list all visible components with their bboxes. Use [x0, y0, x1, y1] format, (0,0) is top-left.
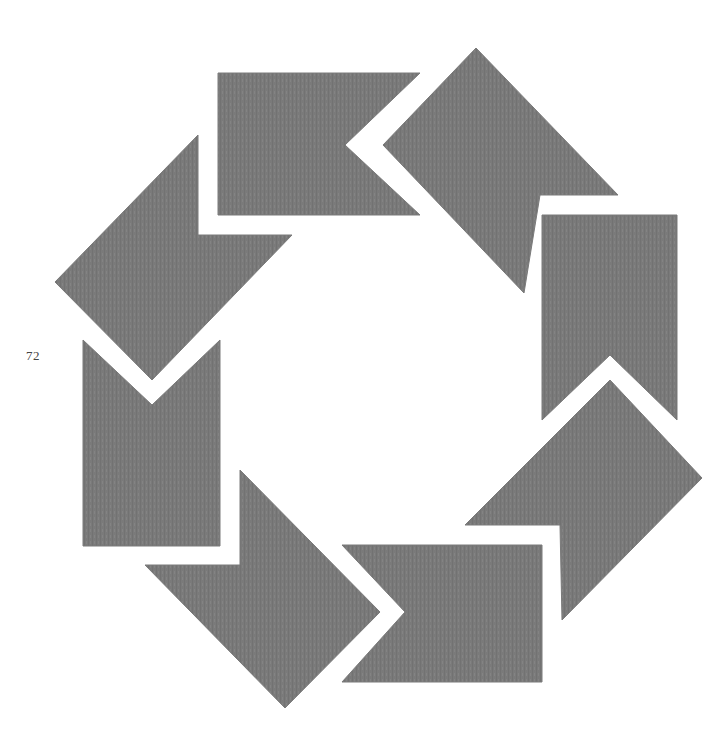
emblem-shapes	[55, 48, 702, 708]
octagon-arrow-emblem	[0, 0, 714, 739]
